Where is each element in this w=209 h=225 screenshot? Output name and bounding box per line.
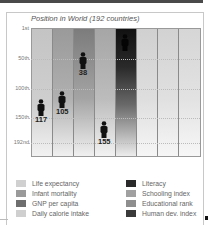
- value-label: 117: [35, 116, 47, 124]
- legend-label: Schooling index: [142, 190, 190, 197]
- value-label: 38: [77, 69, 89, 77]
- column-human-dev-index: [179, 29, 200, 156]
- legend-label: Educational rank: [142, 200, 193, 207]
- gridline-192nd: [29, 143, 200, 144]
- legend-swatch: [16, 180, 26, 187]
- column-schooling-index: [137, 29, 158, 156]
- legend-label: Life expectancy: [32, 180, 79, 187]
- legend-swatch: [126, 210, 136, 217]
- y-tick-1st: 1st: [22, 25, 29, 31]
- legend-item-daily-calorie-intake: Daily calorie intake: [16, 210, 89, 217]
- legend-swatch: [16, 200, 26, 207]
- legend-item-literacy: Literacy: [126, 180, 166, 187]
- legend-item-infant-mortality: Infant mortality: [16, 190, 77, 197]
- y-tick-100th: 100th: [15, 85, 29, 91]
- legend-swatch: [126, 180, 136, 187]
- legend-swatch: [126, 200, 136, 207]
- person-icon: [57, 91, 67, 108]
- gridline-150th: [29, 118, 200, 119]
- gridline-100th: [29, 89, 200, 90]
- legend-label: Literacy: [142, 180, 166, 187]
- legend-item-human-dev-index: Human dev. index: [126, 210, 196, 217]
- legend-label: Daily calorie intake: [32, 210, 89, 217]
- person-icon: [99, 121, 109, 138]
- legend-swatch: [16, 210, 26, 217]
- top-bar: [0, 0, 203, 3]
- marker-infant-mortality: 105: [56, 91, 68, 116]
- legend-label: Infant mortality: [32, 190, 77, 197]
- legend-swatch: [16, 190, 26, 197]
- legend-item-life-expectancy: Life expectancy: [16, 180, 79, 187]
- marker-life-expectancy: 117: [35, 99, 47, 124]
- legend-item-educational-rank: Educational rank: [126, 200, 193, 207]
- legend-swatch: [126, 190, 136, 197]
- marker-literacy: [119, 34, 131, 51]
- column-gnp-per-capita: [74, 29, 95, 156]
- value-label: 155: [98, 138, 110, 146]
- y-tick-192nd: 192nd: [14, 139, 29, 145]
- person-icon: [36, 99, 46, 116]
- person-icon: [120, 34, 130, 51]
- marker-gnp-per-capita: 38: [77, 52, 89, 77]
- column-educational-rank: [158, 29, 179, 156]
- column-life-expectancy: [32, 29, 53, 156]
- legend-item-schooling-index: Schooling index: [126, 190, 190, 197]
- legend-label: GNP per capita: [32, 200, 78, 207]
- gridline-50th: [29, 59, 200, 60]
- legend-label: Human dev. index: [142, 210, 196, 217]
- divider: [0, 219, 8, 220]
- value-label: 105: [56, 108, 68, 116]
- chart-title: Position in World (192 countries): [31, 14, 139, 23]
- person-icon: [78, 52, 88, 69]
- marker-daily-calorie-intake: 155: [98, 121, 110, 146]
- y-tick-50th: 50th: [18, 55, 29, 61]
- corner-mark: [205, 216, 208, 220]
- plot-area: 117 105 38 155: [31, 28, 201, 157]
- legend-item-gnp-per-capita: GNP per capita: [16, 200, 78, 207]
- y-tick-150th: 150th: [15, 114, 29, 120]
